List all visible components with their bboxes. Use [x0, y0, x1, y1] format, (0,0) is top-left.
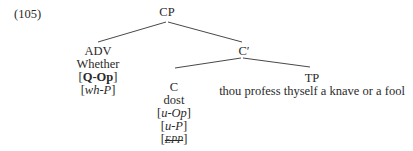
- edge-cbar-c: [175, 58, 241, 68]
- node-tp: TP thou profess thyself a knave or a foo…: [219, 72, 405, 98]
- adv-feature-whp: [wh-P]: [76, 84, 119, 97]
- example-number: (105): [14, 8, 41, 21]
- node-cp: CP: [159, 6, 174, 19]
- node-adv: ADV Whether [Q-Op] [wh-P]: [76, 45, 119, 97]
- node-cbar: C′: [238, 45, 249, 58]
- edge-cbar-tp: [243, 58, 310, 67]
- edge-cp-adv: [98, 22, 166, 42]
- c-feature-epp: [EPP]: [157, 133, 191, 146]
- node-c: C dost [u-Op] [u-P] [EPP]: [157, 81, 191, 146]
- edge-cp-cbar: [168, 22, 242, 42]
- tp-text: thou profess thyself a knave or a fool: [219, 85, 405, 98]
